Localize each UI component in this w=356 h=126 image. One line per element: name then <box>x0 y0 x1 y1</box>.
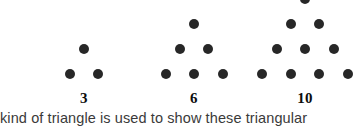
dot-triangle-6-r1-c0 <box>175 44 185 54</box>
dot-triangle-6-r2-c0 <box>161 69 171 79</box>
dot-triangle-10-r3-c3 <box>343 69 353 79</box>
dot-triangle-10-r2-c0 <box>272 44 282 54</box>
dot-triangle-6-r2-c2 <box>218 69 228 79</box>
dot-triangle-3-r0-c0 <box>79 44 89 54</box>
dot-triangle-3-r1-c0 <box>65 69 75 79</box>
dot-triangle-10-r2-c2 <box>329 44 339 54</box>
dot-triangle-3-r1-c1 <box>93 69 103 79</box>
caption-line: kind of triangle is used to show these t… <box>0 112 356 126</box>
dot-triangle-6-r2-c1 <box>189 69 199 79</box>
group-label-triangle-10: 10 <box>297 91 313 106</box>
dot-triangle-6-r0-c0 <box>189 19 199 29</box>
dot-triangle-10-r1-c1 <box>314 19 324 29</box>
group-label-triangle-3: 3 <box>80 91 88 106</box>
dot-triangle-10-r0-c0 <box>300 0 310 4</box>
dot-triangle-10-r3-c1 <box>286 69 296 79</box>
dot-triangle-10-r2-c1 <box>300 44 310 54</box>
dot-triangle-6-r1-c1 <box>203 44 213 54</box>
dot-triangle-10-r3-c2 <box>314 69 324 79</box>
triangular-numbers-figure: 3 6 10 kind of triangle is used to show … <box>0 0 356 126</box>
dot-triangle-10-r1-c0 <box>286 19 296 29</box>
dot-triangle-10-r3-c0 <box>257 69 267 79</box>
caption-text: kind of triangle is used to show these t… <box>0 112 356 126</box>
dot-field <box>0 0 356 126</box>
group-label-triangle-6: 6 <box>190 91 198 106</box>
